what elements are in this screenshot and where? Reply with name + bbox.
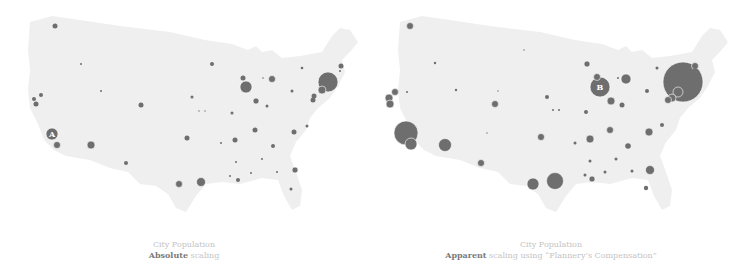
city-bubble [552, 109, 554, 111]
city-bubble [241, 76, 246, 81]
city-bubble [407, 23, 414, 30]
city-bubble [290, 188, 293, 191]
city-bubble [455, 89, 457, 91]
us-landmass [28, 16, 358, 212]
us-map-apparent: B [370, 0, 737, 230]
map-panel-apparent: B City Population Apparent scaling using… [370, 0, 737, 276]
city-bubble [625, 143, 631, 149]
city-bubble [185, 136, 190, 141]
city-bubble [220, 142, 222, 144]
city-bubble [594, 74, 601, 81]
caption-absolute: City Population Absolute scaling [0, 239, 368, 261]
city-bubble [339, 64, 344, 69]
city-bubble [253, 128, 258, 133]
city-bubble [276, 171, 278, 173]
marker-label: B [597, 82, 604, 92]
city-bubble [405, 138, 417, 150]
city-bubble [301, 67, 304, 70]
city-bubble [34, 102, 39, 107]
city-bubble [54, 142, 61, 149]
city-bubble [266, 105, 269, 108]
city-bubble [292, 167, 298, 173]
city-bubble [523, 49, 524, 50]
city-bubble [240, 81, 252, 93]
city-bubble [645, 89, 649, 93]
map-panel-absolute: A City Population Absolute scaling [0, 0, 368, 276]
city-bubble [269, 76, 276, 83]
caption-rest: scaling using “Flannery’s Compensation” [487, 251, 657, 260]
city-bubble [538, 134, 545, 141]
city-bubble [665, 97, 672, 104]
city-bubble [292, 130, 297, 135]
city-bubble [615, 158, 618, 161]
city-bubble [250, 172, 252, 174]
city-bubble [604, 171, 607, 174]
city-bubble [607, 127, 614, 134]
marker-label: A [48, 129, 56, 139]
city-bubble [574, 142, 577, 145]
city-bubble [545, 95, 549, 99]
city-bubble [87, 141, 95, 149]
city-bubble [439, 139, 452, 152]
city-bubble [486, 132, 487, 133]
city-bubble [527, 178, 539, 190]
city-bubble [39, 93, 43, 97]
city-bubble [620, 103, 625, 108]
caption-apparent: City Population Apparent scaling using “… [367, 239, 735, 261]
city-bubble [558, 109, 560, 111]
city-bubble [53, 24, 58, 29]
city-bubble [198, 110, 199, 111]
city-bubble [434, 62, 436, 64]
city-bubble [271, 144, 275, 148]
city-bubble [32, 97, 36, 101]
city-bubble [584, 174, 587, 177]
city-bubble [621, 74, 631, 84]
city-bubble [586, 135, 594, 143]
city-bubble [210, 62, 214, 66]
city-bubble [233, 138, 238, 143]
city-bubble [253, 98, 259, 104]
city-bubble [607, 97, 615, 105]
city-bubble [589, 160, 592, 163]
city-bubble [339, 70, 341, 72]
city-bubble [656, 67, 659, 70]
city-bubble [176, 181, 183, 188]
city-bubble [693, 68, 697, 72]
caption-strong: Absolute [149, 250, 188, 260]
city-bubble [229, 175, 231, 177]
city-bubble [100, 90, 102, 92]
city-bubble [631, 170, 634, 173]
caption-title: City Population [367, 239, 735, 250]
city-bubble [197, 178, 206, 187]
city-bubble [231, 112, 234, 115]
city-bubble [646, 166, 655, 175]
city-bubble [492, 101, 499, 108]
city-bubble [478, 160, 485, 167]
city-bubble [406, 91, 408, 93]
city-bubble [191, 96, 194, 99]
city-bubble [497, 90, 498, 91]
caption-rest: scaling [188, 251, 219, 260]
city-bubble [660, 123, 664, 127]
caption-subtitle: Absolute scaling [0, 250, 368, 261]
city-bubble [236, 178, 240, 182]
us-map-absolute: A [0, 0, 368, 230]
city-bubble [584, 110, 588, 114]
city-bubble [262, 77, 264, 79]
caption-strong: Apparent [445, 250, 486, 260]
city-bubble [584, 61, 590, 67]
city-bubble [235, 161, 237, 163]
city-bubble [261, 158, 263, 160]
city-bubble [547, 173, 564, 190]
city-bubble [124, 161, 128, 165]
city-bubble [291, 90, 294, 93]
city-bubble [617, 77, 619, 79]
city-bubble [386, 100, 394, 108]
caption-title: City Population [0, 239, 368, 250]
city-bubble [392, 89, 399, 96]
city-bubble [204, 110, 205, 111]
caption-subtitle: Apparent scaling using “Flannery’s Compe… [367, 250, 735, 261]
city-bubble [311, 98, 316, 103]
city-bubble [589, 176, 595, 182]
city-bubble [80, 63, 82, 65]
